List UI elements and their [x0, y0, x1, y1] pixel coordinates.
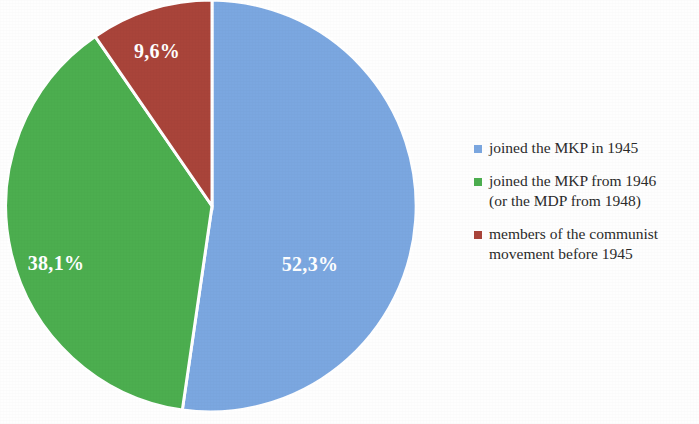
chart-legend: joined the MKP in 1945 joined the MKP fr… [474, 138, 699, 263]
legend-label-joined-1946: joined the MKP from 1946(or the MDP from… [489, 171, 656, 210]
pie-chart-figure: 52,3% 38,1% 9,6% joined the MKP in 1945 … [0, 0, 699, 424]
legend-marker-green-icon [474, 178, 482, 186]
legend-item-members-before-1945[interactable]: members of the communistmovement before … [474, 224, 699, 263]
pie-slice-joined-1945[interactable] [182, 0, 416, 412]
legend-label-joined-1945: joined the MKP in 1945 [489, 138, 638, 157]
legend-label-members-before-1945: members of the communistmovement before … [489, 224, 658, 263]
pie-chart-svg: 52,3% 38,1% 9,6% [0, 0, 440, 424]
legend-item-joined-1945[interactable]: joined the MKP in 1945 [474, 138, 699, 157]
pie-slice-label-blue: 52,3% [282, 253, 339, 275]
legend-item-joined-1946[interactable]: joined the MKP from 1946(or the MDP from… [474, 171, 699, 210]
legend-marker-blue-icon [474, 145, 482, 153]
pie-slice-label-red: 9,6% [134, 40, 180, 62]
pie-slice-label-green: 38,1% [28, 252, 85, 274]
pie-chart-area: 52,3% 38,1% 9,6% [0, 0, 440, 424]
legend-marker-red-icon [474, 231, 482, 239]
